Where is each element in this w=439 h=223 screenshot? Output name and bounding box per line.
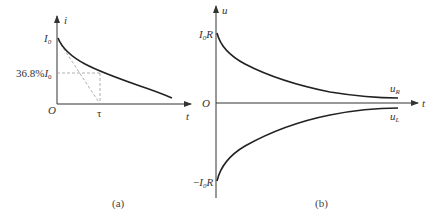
panel-b-caption: (b) (315, 197, 328, 210)
ur-decay-curve (217, 33, 398, 98)
bottom-voltage-label: −I0R (193, 176, 213, 190)
panel-b: u t O I0R −I0R uR uL (b) (193, 4, 426, 210)
ul-rise-curve (217, 108, 398, 181)
ur-curve-label: uR (390, 82, 401, 96)
tau-label: τ (97, 107, 102, 119)
panel-a-x-axis-label: t (186, 110, 190, 122)
rl-transient-diagram: i t O τ I0 36.8%I0 (a) u t O I0R −I0R uR… (0, 0, 439, 223)
panel-b-x-axis-label: t (422, 97, 426, 109)
panel-b-origin-label: O (202, 97, 210, 109)
current-decay-curve (58, 38, 172, 98)
top-voltage-label: I0R (198, 28, 213, 42)
level-368-label: 36.8%I0 (16, 67, 52, 81)
panel-a-y-axis-label: i (64, 14, 67, 26)
panel-b-y-axis-label: u (222, 4, 228, 16)
tangent-dashed-line (58, 40, 100, 104)
panel-a-origin-label: O (48, 104, 56, 116)
panel-a-caption: (a) (112, 197, 125, 210)
ul-curve-label: uL (390, 110, 400, 124)
panel-a: i t O τ I0 36.8%I0 (a) (16, 14, 191, 210)
initial-current-label: I0 (43, 32, 52, 46)
